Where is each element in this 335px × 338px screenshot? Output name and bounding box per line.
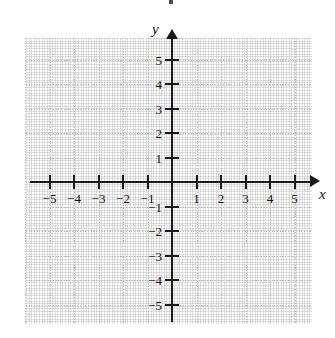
- y-axis-tick: [165, 304, 179, 306]
- x-axis-tick: [196, 175, 198, 189]
- x-axis-tick: [294, 175, 296, 189]
- y-axis-tick-label: 3: [138, 103, 162, 116]
- y-axis-tick: [165, 230, 179, 232]
- x-axis-tick: [98, 175, 100, 189]
- y-axis-label: y: [152, 22, 159, 37]
- x-axis-tick: [122, 175, 124, 189]
- graph-screenshot: −5−4−3−2−112345 54321−1−2−3−4−5 y x: [0, 0, 335, 338]
- x-axis-tick-label: −2: [112, 192, 134, 205]
- x-axis-tick-label: 5: [284, 192, 306, 205]
- y-axis-arrow-icon: [166, 29, 178, 39]
- y-axis-tick-label: −1: [138, 201, 162, 214]
- y-axis-tick: [165, 59, 179, 61]
- y-axis-tick-label: −3: [138, 250, 162, 263]
- x-axis-tick: [245, 175, 247, 189]
- x-axis-tick: [269, 175, 271, 189]
- y-axis-tick: [165, 157, 179, 159]
- scan-speck-artifact: [169, 0, 173, 4]
- grid-line-vertical: [25, 38, 26, 324]
- y-axis-tick-label: 1: [138, 152, 162, 165]
- x-axis-tick: [147, 175, 149, 189]
- x-axis-tick-label: −5: [39, 192, 61, 205]
- y-axis-tick: [165, 132, 179, 134]
- y-axis-tick-label: 2: [138, 127, 162, 140]
- x-axis-tick: [220, 175, 222, 189]
- y-axis-tick: [165, 83, 179, 85]
- x-axis-tick: [73, 175, 75, 189]
- x-axis-tick: [49, 175, 51, 189]
- y-axis-tick: [165, 279, 179, 281]
- y-axis-tick-label: −4: [138, 274, 162, 287]
- x-axis-tick-label: −4: [63, 192, 85, 205]
- y-axis-tick-label: −2: [138, 225, 162, 238]
- y-axis-tick-label: −5: [138, 299, 162, 312]
- x-axis-tick-label: 1: [186, 192, 208, 205]
- y-axis-tick-label: 5: [138, 54, 162, 67]
- y-axis-tick: [165, 206, 179, 208]
- x-axis-label: x: [319, 187, 326, 202]
- y-axis-tick-label: 4: [138, 78, 162, 91]
- x-axis-tick-label: 4: [259, 192, 281, 205]
- y-axis-tick: [165, 108, 179, 110]
- x-axis-tick-label: 2: [210, 192, 232, 205]
- x-axis-tick-label: −3: [88, 192, 110, 205]
- y-axis-tick: [165, 255, 179, 257]
- x-axis-tick-label: 3: [235, 192, 257, 205]
